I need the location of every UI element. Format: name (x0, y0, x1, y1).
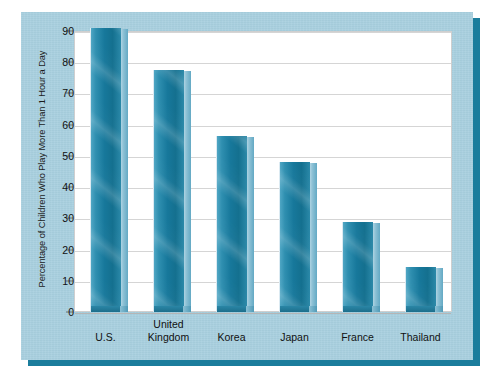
x-axis-tick-label: Thailand (389, 331, 452, 344)
x-axis-tick-label-line: United (137, 318, 200, 331)
gridline (75, 313, 451, 314)
x-axis-tick-label: Japan (263, 331, 326, 344)
gridline (75, 63, 451, 64)
bar-chart-figure: Percentage of Children Who Play More Tha… (0, 0, 493, 386)
x-axis-tick-label: France (326, 331, 389, 344)
x-axis-tick-label-line: France (326, 331, 389, 344)
y-axis-tick-labels: 9080706050403020100 (30, 31, 74, 312)
y-axis-tick-label: 40 (48, 182, 74, 193)
y-axis-tick-label: 0 (48, 307, 74, 318)
x-axis-tick-label-line: Korea (200, 331, 263, 344)
y-axis-tick-label: 50 (48, 150, 74, 161)
x-axis-tick-label-line: Kingdom (137, 331, 200, 344)
gridline (75, 126, 451, 127)
x-axis-tick-label: U.S. (74, 331, 137, 344)
y-axis-tick-label: 30 (48, 213, 74, 224)
gridline (75, 188, 451, 189)
gridline (75, 282, 451, 283)
y-axis-tick-label: 10 (48, 275, 74, 286)
x-axis-tick-label: UnitedKingdom (137, 318, 200, 343)
y-axis-tick-label: 60 (48, 119, 74, 130)
gridline (75, 157, 451, 158)
gridline (75, 251, 451, 252)
x-axis-tick-label-line: U.S. (74, 331, 137, 344)
x-axis-tick-labels: U.S.UnitedKingdomKoreaJapanFranceThailan… (74, 318, 452, 358)
gridline (75, 94, 451, 95)
y-axis-tick-label: 90 (48, 26, 74, 37)
x-axis-tick-label-line: Thailand (389, 331, 452, 344)
plot-area (74, 31, 452, 312)
y-axis-tick-label: 70 (48, 88, 74, 99)
gridline (75, 219, 451, 220)
y-axis-tick-label: 80 (48, 57, 74, 68)
x-axis-tick-label-line: Japan (263, 331, 326, 344)
y-axis-tick-label: 20 (48, 244, 74, 255)
gridline (75, 32, 451, 33)
x-axis-tick-label: Korea (200, 331, 263, 344)
